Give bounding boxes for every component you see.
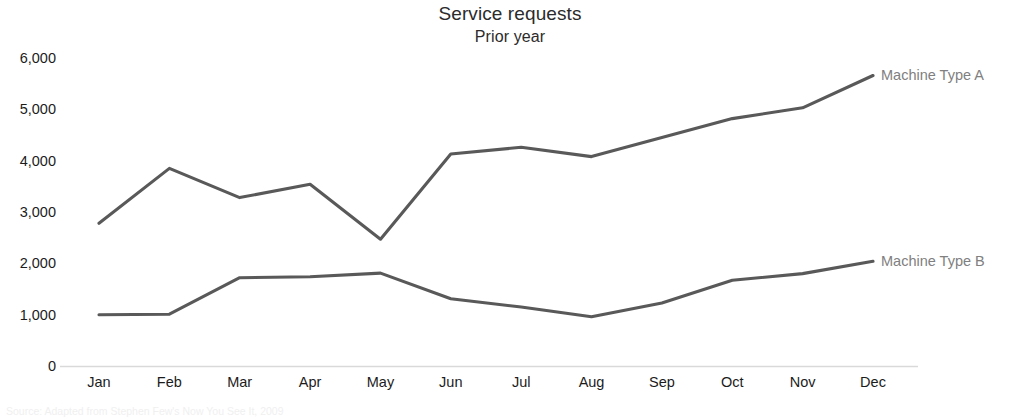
series-label-machine-type-a: Machine Type A: [881, 67, 984, 83]
y-axis-tick-label: 1,000: [4, 307, 56, 323]
y-axis-tick-label: 3,000: [4, 204, 56, 220]
source-note: Source: Adapted from Stephen Few's Now Y…: [6, 405, 284, 417]
y-axis-tick-labels: 01,0002,0003,0004,0005,0006,000: [0, 0, 56, 416]
x-axis-tick-label: Nov: [790, 374, 816, 390]
x-axis-tick-label: Apr: [299, 374, 322, 390]
x-axis-tick-label: Jul: [512, 374, 531, 390]
series-label-machine-type-b: Machine Type B: [881, 253, 985, 269]
x-axis-tick-label: Mar: [227, 374, 252, 390]
y-axis-tick-label: 0: [4, 358, 56, 374]
x-axis-tick-label: Jun: [439, 374, 462, 390]
y-axis-tick-label: 2,000: [4, 255, 56, 271]
x-axis-tick-label: May: [367, 374, 394, 390]
x-axis-tick-label: Feb: [157, 374, 182, 390]
x-axis-tick-label: Aug: [579, 374, 605, 390]
y-axis-tick-label: 5,000: [4, 101, 56, 117]
x-axis-tick-label: Dec: [860, 374, 886, 390]
series-line-machine-type-a: [99, 76, 873, 240]
y-axis-tick-label: 6,000: [4, 50, 56, 66]
x-axis-tick-label: Oct: [721, 374, 744, 390]
series-line-machine-type-b: [99, 261, 873, 316]
y-axis-tick-label: 4,000: [4, 153, 56, 169]
x-axis-tick-label: Sep: [649, 374, 675, 390]
x-axis-tick-label: Jan: [87, 374, 110, 390]
